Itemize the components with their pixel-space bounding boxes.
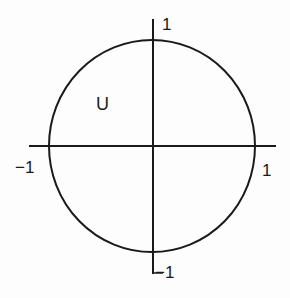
x-positive-label: 1 [262, 162, 271, 179]
y-positive-label: 1 [162, 16, 171, 33]
diagram-graphics [0, 0, 290, 298]
y-negative-label: −1 [155, 264, 174, 281]
unit-circle-diagram: U 1 −1 1 −1 [0, 0, 290, 298]
x-negative-label: −1 [15, 159, 34, 176]
region-label-u: U [96, 95, 109, 113]
